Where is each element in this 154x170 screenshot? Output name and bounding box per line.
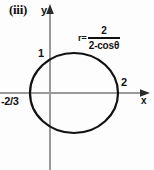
equation-annotation: r= 2 2-cosθ: [78, 25, 120, 51]
y-axis-label: y: [41, 5, 47, 16]
equation-lhs: r=: [78, 33, 88, 44]
figure-canvas: [0, 0, 154, 170]
equation-numerator: 2: [99, 25, 109, 37]
x-tick-label-neg-two-thirds: -2/3: [1, 96, 18, 107]
y-tick-label-1: 1: [38, 48, 44, 59]
y-axis-arrowhead: [46, 4, 54, 14]
x-axis-label: x: [141, 96, 147, 106]
equation-denominator: 2-cosθ: [88, 39, 120, 51]
equation-fraction: 2 2-cosθ: [88, 25, 120, 51]
polar-curve-figure: (iii) y x 1 2 -2/3 r= 2 2-cosθ: [0, 0, 154, 170]
x-tick-label-2: 2: [121, 77, 127, 88]
part-label: (iii): [9, 3, 27, 16]
